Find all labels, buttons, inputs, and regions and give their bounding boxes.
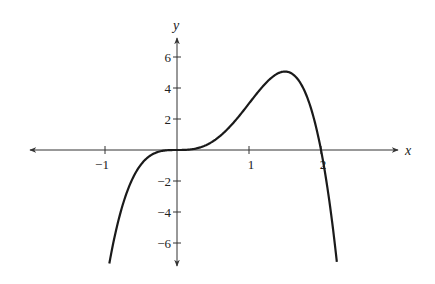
x-axis-label: x	[404, 143, 412, 158]
y-tick-label: 6	[165, 50, 172, 65]
x-tick-label: 1	[248, 157, 255, 172]
y-tick-label: −6	[157, 236, 171, 251]
y-axis-label: y	[171, 18, 180, 33]
y-tick-label: 4	[165, 81, 172, 96]
y-tick-label: −2	[157, 174, 171, 189]
y-tick-label: −4	[157, 205, 171, 220]
function-graph: x y −112 642−2−4−6	[0, 0, 435, 284]
function-curve	[109, 72, 337, 264]
y-tick-label: 2	[165, 112, 172, 127]
x-tick-label: −1	[95, 157, 109, 172]
